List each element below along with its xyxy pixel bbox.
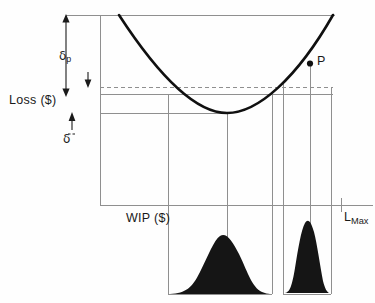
delta-p-inner-arrow (85, 72, 92, 88)
delta-p-label: δp (59, 50, 71, 64)
loss-vs-wip-figure: Loss ($) WIP ($) δp δ P LMax (0, 0, 375, 303)
x-axis-label: WIP ($) (126, 212, 170, 225)
point-P-label: P (317, 55, 325, 68)
point-P-marker (307, 60, 313, 66)
delta-arrowhead-up (69, 112, 76, 121)
y-axis-label: Loss ($) (9, 94, 57, 107)
delta-p-arrowhead-down (62, 89, 69, 98)
lmax-label: LMax (344, 211, 368, 226)
figure-canvas (0, 0, 375, 303)
inner-arrow-head (85, 80, 92, 89)
lmax-base-glyph: L (344, 210, 351, 224)
lmax-subscript: Max (351, 216, 368, 226)
delta-dimension (68, 112, 76, 134)
delta-label: δ (63, 133, 70, 145)
narrow-distribution-shape (285, 221, 329, 293)
wide-distribution-shape (170, 235, 270, 294)
loss-curve (119, 15, 333, 113)
delta-p-subscript: p (66, 54, 71, 64)
